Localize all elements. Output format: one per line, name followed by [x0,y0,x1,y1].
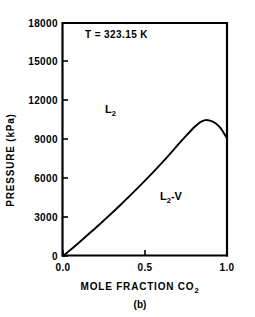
x-axis-title-subscript: 2 [194,286,199,295]
x-tick-label-0.0: 0.0 [55,262,70,273]
y-tick-label-18000: 18000 [28,18,58,29]
region-label-l2: L2 [105,103,116,118]
plot-frame [63,22,229,257]
region-label-l2-v: L2-V [160,190,183,205]
x-tick-label-0.5: 0.5 [137,262,152,273]
y-tick-label-12000: 12000 [28,95,58,106]
y-tick-label-9000: 9000 [34,134,58,145]
x-axis-title-base: MOLE FRACTION CO [81,281,195,292]
region-label-l2v-tail: -V [171,190,183,202]
x-tick-label-1.0: 1.0 [219,262,234,273]
phase-diagram-chart: 18000 15000 12000 9000 6000 3000 0 0.0 0… [0,0,255,317]
y-tick-label-15000: 15000 [28,56,58,67]
y-axis-title: PRESSURE (kPa) [5,113,16,206]
y-tick-label-0: 0 [52,251,58,262]
figure-container: 18000 15000 12000 9000 6000 3000 0 0.0 0… [0,0,255,317]
y-tick-label-3000: 3000 [34,212,58,223]
x-axis-title: MOLE FRACTION CO2 [81,281,200,295]
region-label-l2-subscript: 2 [112,109,116,118]
temperature-annotation: T = 323.15 K [85,29,148,40]
panel-caption: (b) [134,299,147,310]
bubble-point-curve [63,120,227,256]
y-tick-label-6000: 6000 [34,173,58,184]
